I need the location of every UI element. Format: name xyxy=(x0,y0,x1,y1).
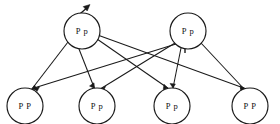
genetic-cross-diagram: P p P p P P P p P p P P xyxy=(0,0,280,124)
arrow-head-icon xyxy=(90,83,95,89)
edge-parent-left-to-offspring-2 xyxy=(79,49,95,89)
edge-line xyxy=(173,48,181,88)
parent-node-left[interactable]: P p xyxy=(64,13,100,49)
edge-parent-right-to-offspring-3 xyxy=(170,48,181,88)
edge-line xyxy=(34,44,176,88)
parent-node-right[interactable]: P p xyxy=(170,13,206,49)
edge-line xyxy=(32,42,69,90)
offspring-node-1[interactable]: P P xyxy=(7,88,43,124)
diagram-canvas: P p P p P P P p P p P P xyxy=(0,0,280,124)
offspring-4-label: P P xyxy=(243,101,256,111)
edge-parent-right-to-offspring-1 xyxy=(34,44,176,92)
edge-group xyxy=(32,36,246,93)
parent-left-label: P p xyxy=(76,26,89,36)
arrow-head-icon xyxy=(170,83,175,88)
offspring-3-label: P p xyxy=(166,101,179,111)
edge-parent-left-to-offspring-3 xyxy=(97,39,168,90)
offspring-2-label: P p xyxy=(91,101,104,111)
offspring-node-2[interactable]: P p xyxy=(79,88,115,124)
edge-line xyxy=(79,49,95,89)
offspring-node-4[interactable]: P P xyxy=(232,88,268,124)
edge-line xyxy=(201,43,245,90)
offspring-node-3[interactable]: P p xyxy=(154,88,190,124)
edge-parent-right-to-offspring-4 xyxy=(201,43,245,93)
edge-line xyxy=(99,36,245,89)
parent-node-group: P p P p xyxy=(64,13,206,49)
edge-parent-left-to-offspring-4 xyxy=(99,36,245,91)
edge-line xyxy=(97,39,168,88)
offspring-node-group: P P P p P p P P xyxy=(7,88,268,124)
offspring-1-label: P P xyxy=(18,101,31,111)
parent-right-label: P p xyxy=(182,26,195,36)
